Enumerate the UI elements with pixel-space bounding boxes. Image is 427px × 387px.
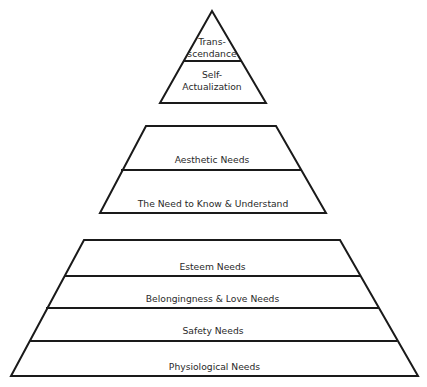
level-safety-needs: Safety Needs [29,325,397,337]
level-aesthetic-needs: Aesthetic Needs [112,154,312,166]
level-physiological-needs: Physiological Needs [11,361,418,373]
level-self-actualization: Self- Actualization [162,69,262,92]
level-belongingness-love: Belongingness & Love Needs [46,293,379,305]
level-esteem-needs: Esteem Needs [64,261,361,273]
level-transcendence: Trans- scendance [182,36,242,59]
level-need-to-know: The Need to Know & Understand [100,198,326,210]
